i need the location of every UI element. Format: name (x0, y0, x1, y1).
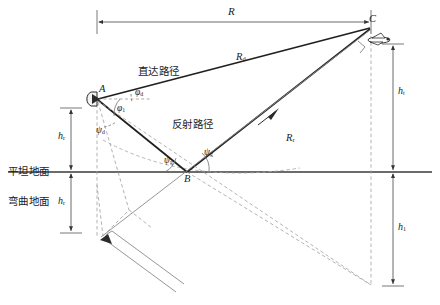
label-mirror-radar-height-hr: hr (58, 196, 65, 207)
label-direct-path: 直达路径 (138, 66, 180, 77)
label-point-b: B (184, 174, 190, 185)
label-curved-ground: 弯曲地面 (8, 196, 50, 207)
mirror-frame-dashed-1 (97, 185, 103, 236)
curved-ground-arc (103, 140, 300, 173)
label-radar-height-hr: hr (58, 131, 65, 142)
diagram-vector-layer (0, 0, 440, 305)
label-angle-psi-d: ψd (96, 126, 105, 136)
label-angle-phi-d: φd (135, 88, 143, 98)
angle-arc-psi-d (104, 122, 116, 127)
label-reflected-path: 反射路径 (172, 119, 214, 130)
direction-arrow-icon (258, 108, 279, 125)
label-angle-psi-g-right: ψg (204, 148, 213, 158)
label-target-height-ht: ht (398, 86, 405, 97)
label-direct-range-Rd: Rd (236, 52, 246, 63)
diagram-canvas: R A B C 直达路径 反射路径 Rd Rr hr hr ht h1 φd φ… (0, 0, 440, 305)
label-point-c: C (369, 14, 376, 25)
label-angle-psi-g-left: ψg (164, 156, 173, 166)
label-reflected-range-Rr: Rr (286, 133, 295, 144)
radar-antenna-mirror-icon (100, 231, 184, 292)
label-image-height-h1: h1 (398, 222, 406, 233)
incident-ray-a-to-b (98, 100, 187, 172)
label-flat-ground: 平坦地面 (8, 166, 50, 177)
label-point-a: A (99, 84, 105, 95)
right-angle-marker (358, 41, 365, 53)
target-height-dimension (382, 44, 404, 170)
label-angle-phi-1: φ1 (117, 104, 125, 114)
label-range-R: R (228, 6, 235, 17)
radar-to-image-dashed (98, 101, 371, 285)
image-ray-dashed-b-to-image (187, 172, 371, 285)
radar-mirror-dashed (98, 102, 129, 210)
angle-arc-phi-d (131, 94, 132, 102)
